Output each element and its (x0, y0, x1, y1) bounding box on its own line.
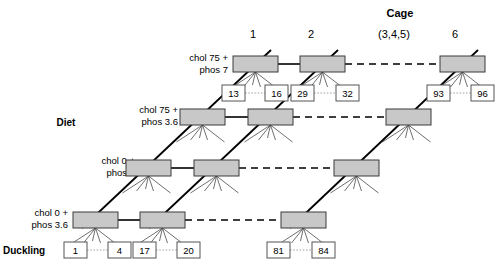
duckling-box-label: 32 (342, 88, 353, 99)
duckling-box-label: 20 (183, 245, 194, 256)
duckling-box-label: 16 (271, 88, 282, 99)
duckling-box-1[interactable]: 1 (64, 242, 87, 258)
cage-box-r2-c3[interactable] (334, 160, 379, 176)
duckling-box-label: 93 (433, 88, 444, 99)
cage-column-label-2: (3,4,5) (378, 28, 410, 40)
duckling-box-20[interactable]: 20 (177, 242, 200, 258)
diet-label-3-line2: phos 3.6 (32, 219, 68, 230)
fan-line (203, 125, 225, 142)
diet-diagonal (290, 50, 478, 228)
cage-header-group: Cage 12(3,4,5)6 (250, 7, 458, 40)
cage-box-r3-c1[interactable] (140, 212, 185, 228)
cage-column-labels: 12(3,4,5)6 (250, 28, 458, 40)
duckling-box-label: 4 (117, 245, 122, 256)
cage-box-r0-c1[interactable] (300, 56, 345, 72)
duckling-box-29[interactable]: 29 (291, 85, 314, 101)
duckling-box-4[interactable]: 4 (108, 242, 131, 258)
diet-label-3-line1: chol 0 + (34, 207, 68, 218)
diet-label-0-line1: chol 75 + (189, 52, 228, 63)
cage-box-r0-c3[interactable] (440, 56, 485, 72)
fan-line (357, 176, 379, 193)
duckling-box-label: 13 (228, 88, 239, 99)
cage-box-r3-c0[interactable] (73, 212, 118, 228)
duckling-box-label: 1 (73, 245, 78, 256)
duckling-box-93[interactable]: 93 (427, 85, 450, 101)
connector-lines (82, 50, 478, 228)
duckling-box-96[interactable]: 96 (471, 85, 494, 101)
cage-column-label-1: 2 (308, 28, 314, 40)
duckling-box-32[interactable]: 32 (336, 85, 359, 101)
cage-box-r3-c3[interactable] (281, 212, 326, 228)
duckling-box-label: 17 (139, 245, 150, 256)
diet-label-1-line2: phos 3.6 (142, 116, 178, 127)
diet-row-labels: chol 75 +phos 7chol 75 +phos 3.6chol 0 +… (32, 52, 229, 230)
cage-box-r2-c0[interactable] (126, 160, 171, 176)
cage-boxes (73, 56, 485, 228)
duckling-box-13[interactable]: 13 (222, 85, 245, 101)
cage-box-r2-c1[interactable] (194, 160, 239, 176)
fan-line (271, 125, 293, 142)
duckling-axis-label: Duckling (3, 245, 45, 256)
duckling-box-label: 96 (477, 88, 488, 99)
nested-design-diagram: Cage 12(3,4,5)6 Diet Duckling chol 75 +p… (0, 0, 503, 271)
duckling-box-label: 29 (297, 88, 308, 99)
diet-label-1-line1: chol 75 + (139, 104, 178, 115)
diagram-canvas: Cage 12(3,4,5)6 Diet Duckling chol 75 +p… (0, 0, 503, 271)
diet-label-0-line2: phos 7 (199, 64, 228, 75)
duckling-box-label: 81 (273, 245, 284, 256)
duckling-box-84[interactable]: 84 (312, 242, 335, 258)
cage-header-title: Cage (387, 7, 414, 19)
duckling-box-17[interactable]: 17 (133, 242, 156, 258)
fan-line (409, 125, 431, 142)
fan-line (149, 176, 171, 193)
duckling-box-label: 84 (318, 245, 329, 256)
diet-axis-label: Diet (57, 117, 77, 128)
duckling-box-81[interactable]: 81 (267, 242, 290, 258)
cage-column-label-0: 1 (250, 28, 256, 40)
cage-box-r1-c1[interactable] (248, 109, 293, 125)
duckling-box-16[interactable]: 16 (265, 85, 288, 101)
cage-box-r1-c0[interactable] (180, 109, 225, 125)
fan-line (217, 176, 239, 193)
cage-column-label-3: 6 (452, 28, 458, 40)
cage-box-r1-c3[interactable] (386, 109, 431, 125)
cage-box-r0-c0[interactable] (233, 56, 278, 72)
